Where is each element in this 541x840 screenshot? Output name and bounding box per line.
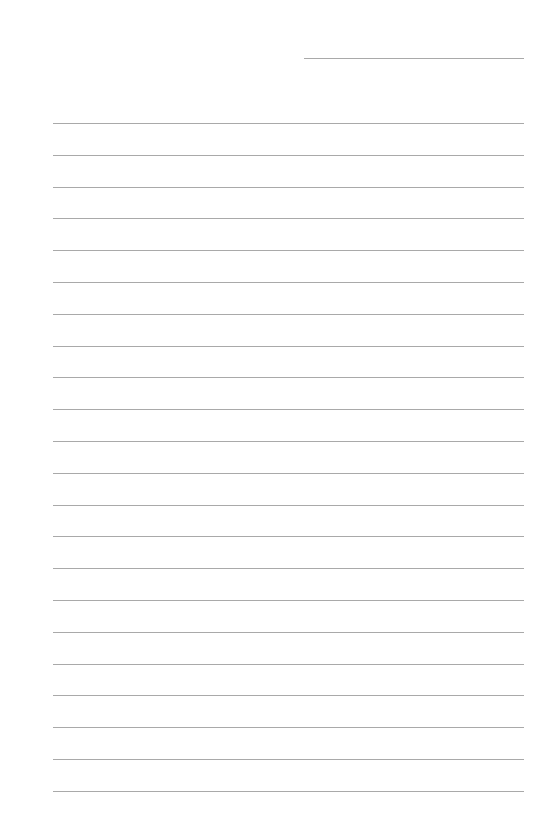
ruled-line: [53, 473, 524, 474]
ruled-line: [53, 282, 524, 283]
ruled-line: [53, 727, 524, 728]
ruled-line: [53, 314, 524, 315]
ruled-line: [53, 377, 524, 378]
ruled-line: [53, 155, 524, 156]
ruled-line: [53, 346, 524, 347]
ruled-line: [53, 187, 524, 188]
ruled-line: [53, 600, 524, 601]
ruled-line: [53, 218, 524, 219]
ruled-line: [53, 695, 524, 696]
ruled-line: [53, 791, 524, 792]
ruled-line: [53, 441, 524, 442]
ruled-line: [53, 664, 524, 665]
ruled-line: [53, 409, 524, 410]
ruled-line: [53, 123, 524, 124]
ruled-line: [53, 536, 524, 537]
ruled-line: [53, 632, 524, 633]
header-field-line: [304, 58, 524, 59]
lined-page: [0, 0, 541, 840]
ruled-line: [53, 568, 524, 569]
ruled-line: [53, 505, 524, 506]
ruled-line: [53, 250, 524, 251]
ruled-line: [53, 759, 524, 760]
